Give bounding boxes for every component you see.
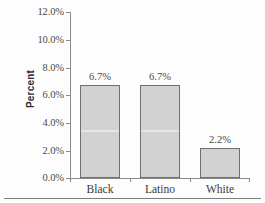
- y-tick-label-12: 12.0%: [4, 7, 64, 18]
- x-tick-mark: [130, 178, 131, 182]
- y-tick-mark: [66, 68, 70, 69]
- y-tick-label-8: 8.0%: [4, 63, 64, 74]
- x-tick-mark: [70, 178, 71, 182]
- bar-value-black: 6.7%: [68, 72, 132, 83]
- bar-latino: [140, 85, 180, 178]
- x-category-label-white: White: [184, 183, 256, 195]
- y-tick-mark: [66, 40, 70, 41]
- y-tick-label-2: 2.0%: [4, 146, 64, 157]
- y-tick-label-6: 6.0%: [4, 90, 64, 101]
- bar-value-latino: 6.7%: [128, 72, 192, 83]
- x-tick-mark: [249, 178, 250, 182]
- y-tick-label-10: 10.0%: [4, 35, 64, 46]
- bar-chart-figure: Percent 12.0% 10.0% 8.0% 6.0% 4.0% 2.0% …: [0, 0, 265, 203]
- y-tick-mark: [66, 123, 70, 124]
- bar-value-white: 2.2%: [188, 135, 252, 146]
- y-tick-label-0: 0.0%: [4, 173, 64, 184]
- y-tick-mark: [66, 151, 70, 152]
- x-axis-line: [70, 178, 250, 179]
- bottom-divider: [4, 198, 261, 199]
- y-axis-line: [70, 12, 71, 179]
- y-tick-mark: [66, 12, 70, 13]
- y-tick-mark: [66, 95, 70, 96]
- bar-black: [80, 85, 120, 178]
- bar-white: [200, 148, 240, 178]
- y-tick-label-4: 4.0%: [4, 118, 64, 129]
- x-tick-mark: [190, 178, 191, 182]
